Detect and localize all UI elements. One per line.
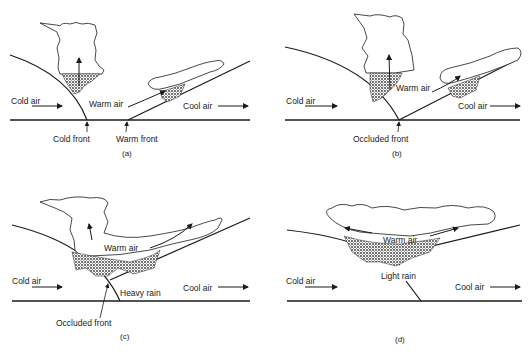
panel-b — [285, 14, 521, 132]
label-cold-front: Cold front — [53, 134, 90, 144]
label-light-rain: Light rain — [381, 271, 416, 281]
cumulonimbus-cloud — [40, 23, 104, 75]
caption-a: (a) — [122, 149, 132, 158]
panel-d — [287, 204, 522, 301]
occluded-surface-front — [406, 281, 421, 301]
label-cool-air: Cool air — [458, 101, 487, 111]
label-cool-air: Cool air — [455, 282, 484, 292]
caption-b: (b) — [392, 149, 402, 158]
caption-d: (d) — [395, 335, 405, 344]
label-cold-air: Cold air — [12, 276, 41, 286]
label-warm-air: Warm air — [396, 83, 430, 93]
label-warm-air: Warm air — [89, 99, 123, 109]
label-heavy-rain: Heavy rain — [120, 288, 161, 298]
panel-c — [12, 197, 250, 318]
occluded-front-pointer — [398, 122, 399, 132]
label-warm-air: Warm air — [383, 235, 417, 245]
label-warm-front: Warm front — [116, 134, 158, 144]
cumulonimbus-cloud — [354, 14, 414, 73]
stratiform-cloud — [326, 204, 495, 236]
caption-c: (c) — [120, 332, 129, 341]
label-occluded-front: Occluded front — [353, 134, 408, 144]
label-cold-air: Cold air — [286, 276, 315, 286]
occlusion-diagram — [0, 0, 532, 354]
label-cool-air: Cool air — [183, 283, 212, 293]
panel-a — [10, 23, 250, 133]
label-cold-air: Cold air — [11, 96, 40, 106]
stratus-cloud — [148, 60, 224, 89]
label-cold-air: Cold air — [286, 96, 315, 106]
label-occluded-front: Occluded front — [56, 318, 111, 328]
rain-shade — [62, 74, 100, 94]
label-cool-air: Cool air — [183, 101, 212, 111]
label-warm-air: Warm air — [104, 243, 138, 253]
warm-front-pointer — [126, 122, 127, 132]
